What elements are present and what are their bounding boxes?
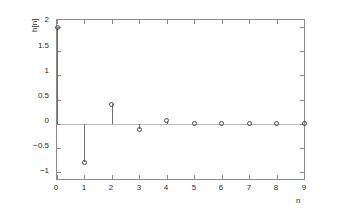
data-point-marker: [219, 121, 224, 126]
x-tick-mark: [194, 20, 195, 24]
y-tick-mark: [300, 172, 304, 173]
data-point-marker: [192, 121, 197, 126]
y-tick-mark: [57, 172, 61, 173]
y-tick-label: −0.5: [19, 142, 49, 150]
y-tick-label: 2: [19, 16, 49, 24]
data-point-marker: [274, 121, 279, 126]
x-tick-label: 1: [74, 183, 94, 193]
data-point-marker: [302, 121, 307, 126]
stem-line: [112, 104, 113, 123]
x-tick-mark: [277, 20, 278, 24]
x-tick-label: 5: [184, 183, 204, 193]
y-tick-label: 0.5: [19, 92, 49, 100]
stem-line: [57, 27, 58, 123]
x-tick-mark: [57, 20, 58, 24]
y-tick-mark: [57, 148, 61, 149]
x-tick-label: 8: [266, 183, 286, 193]
zero-baseline: [57, 124, 304, 125]
data-point-marker: [247, 121, 252, 126]
y-tick-mark: [300, 100, 304, 101]
figure-canvas: h[n] n 2 1.5 1 0.5 0 −0.5 −1 0 1 2 3 4 5…: [0, 0, 340, 212]
x-tick-label: 3: [129, 183, 149, 193]
y-tick-label: 0: [19, 117, 49, 125]
y-tick-label: 1: [19, 67, 49, 75]
x-tick-label: 4: [156, 183, 176, 193]
data-point-marker: [82, 160, 87, 165]
x-tick-mark: [84, 20, 85, 24]
data-point-marker: [137, 127, 142, 132]
x-tick-label: 7: [239, 183, 259, 193]
x-tick-mark: [112, 20, 113, 24]
x-tick-mark: [222, 175, 223, 179]
y-tick-mark: [300, 148, 304, 149]
x-tick-mark: [57, 175, 58, 179]
x-tick-label: 6: [211, 183, 231, 193]
data-point-marker: [55, 25, 60, 30]
x-tick-mark: [304, 20, 305, 24]
x-tick-mark: [112, 175, 113, 179]
data-point-marker: [164, 118, 169, 123]
x-tick-mark: [249, 20, 250, 24]
y-tick-mark: [300, 75, 304, 76]
data-point-marker: [109, 102, 114, 107]
x-tick-mark: [139, 20, 140, 24]
stem-line: [84, 124, 85, 163]
x-tick-mark: [167, 175, 168, 179]
x-tick-mark: [222, 20, 223, 24]
x-tick-mark: [304, 175, 305, 179]
plot-area: [56, 19, 305, 180]
x-tick-label: 0: [46, 183, 66, 193]
x-tick-mark: [139, 175, 140, 179]
x-tick-label: 9: [294, 183, 314, 193]
x-tick-mark: [194, 175, 195, 179]
x-tick-mark: [249, 175, 250, 179]
x-tick-mark: [84, 175, 85, 179]
y-tick-mark: [300, 51, 304, 52]
y-tick-label: 1.5: [19, 42, 49, 50]
y-tick-mark: [57, 124, 61, 125]
x-tick-mark: [167, 20, 168, 24]
y-tick-mark: [300, 27, 304, 28]
x-tick-mark: [277, 175, 278, 179]
y-tick-label: −1: [19, 167, 49, 175]
x-tick-label: 2: [101, 183, 121, 193]
x-axis-title: n: [296, 196, 300, 205]
